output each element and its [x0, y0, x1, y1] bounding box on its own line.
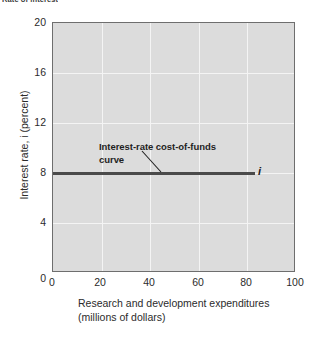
- y-axis-title-text: Interest rate, i (percent): [18, 90, 30, 199]
- gridline-y-12: [53, 123, 294, 124]
- series-label-i: i: [258, 165, 261, 177]
- gridline-x-80: [247, 23, 248, 271]
- curve-annotation: Interest-rate cost-of-funds curve: [99, 141, 216, 166]
- figure-container: Rate of interest Interest-rate cost-of-f…: [0, 0, 317, 338]
- xtick-label-0: 0: [34, 276, 70, 288]
- xtick-label-80: 80: [228, 276, 264, 288]
- figure-top-caption: Rate of interest: [2, 0, 58, 2]
- xtick-label-100: 100: [277, 276, 313, 288]
- ytick-label-20: 20: [10, 16, 46, 28]
- xtick-label-20: 20: [82, 276, 118, 288]
- plot-area: Interest-rate cost-of-funds curve i: [52, 22, 295, 272]
- x-axis-title: Research and development expenditures (m…: [78, 296, 269, 324]
- gridline-y-4: [53, 223, 294, 224]
- xtick-label-60: 60: [180, 276, 216, 288]
- gridline-y-16: [53, 73, 294, 74]
- y-axis-title: Interest rate, i (percent): [18, 60, 30, 230]
- xtick-label-40: 40: [131, 276, 167, 288]
